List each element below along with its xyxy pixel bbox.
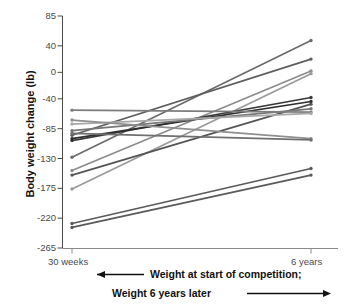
series-line [72, 110, 311, 112]
series-endpoint-marker [70, 155, 73, 158]
series-endpoint-marker [309, 138, 312, 141]
series-endpoint-marker [70, 226, 73, 229]
x-tick-label-30-weeks: 30 weeks [48, 256, 88, 267]
y-tick-label: 40 [12, 41, 56, 51]
series-endpoint-marker [309, 39, 312, 42]
series-endpoint-marker [309, 96, 312, 99]
series-endpoint-marker [70, 222, 73, 225]
series-line [72, 59, 311, 135]
series-endpoint-marker [309, 112, 312, 115]
series-endpoint-marker [70, 118, 73, 121]
series-endpoint-marker [309, 102, 312, 105]
y-tick-label: 0 [12, 67, 56, 77]
caption-arrow-right [247, 290, 331, 297]
series-endpoint-marker [309, 173, 312, 176]
series-endpoint-marker [70, 137, 73, 140]
y-axis-ticks [58, 16, 63, 248]
series-endpoint-marker [70, 173, 73, 176]
y-tick-label: -85 [12, 124, 56, 134]
series-line [72, 168, 311, 223]
caption-arrow-left [97, 271, 144, 278]
y-tick-label: -265 [12, 243, 56, 253]
series-line [72, 175, 311, 227]
series-endpoint-marker [70, 187, 73, 190]
series-endpoint-marker [309, 107, 312, 110]
y-tick-label: 85 [12, 11, 56, 21]
series-endpoint-marker [70, 132, 73, 135]
series-group [72, 41, 311, 228]
caption-line-1: Weight at start of competition; [150, 268, 301, 280]
y-tick-label: -130 [12, 154, 56, 164]
x-tick-label-6-years: 6 years [291, 256, 322, 267]
y-tick-label: -220 [12, 213, 56, 223]
x-axis-ticks [72, 249, 311, 254]
series-endpoint-marker [309, 72, 312, 75]
y-tick-label: -175 [12, 183, 56, 193]
series-endpoint-marker [309, 167, 312, 170]
caption-line-2: Weight 6 years later [112, 287, 211, 299]
chart-figure: Body weight change (lb) 85400-40-85-130-… [0, 0, 344, 308]
series-endpoint-marker [309, 57, 312, 60]
y-tick-label: -40 [12, 94, 56, 104]
series-endpoint-marker [70, 169, 73, 172]
series-endpoint-marker [70, 108, 73, 111]
series-line [72, 74, 311, 189]
series-endpoint-marker [70, 122, 73, 125]
